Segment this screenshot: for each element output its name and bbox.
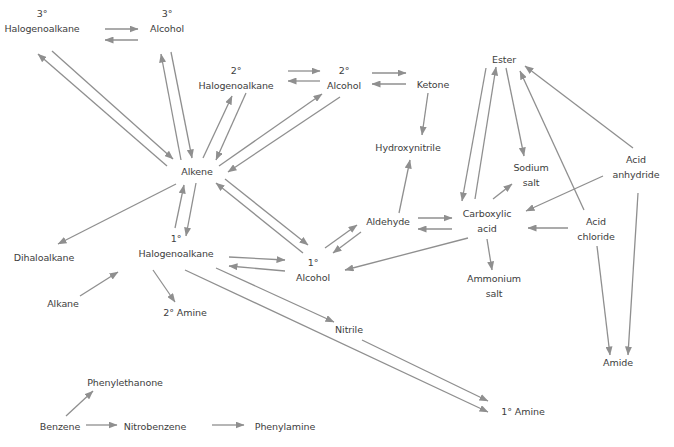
node-label-line: Alcohol [327, 78, 361, 93]
arrow-carboxylic-to-sodiumsalt [493, 184, 512, 199]
node-acidanhydride: Acidanhydride [612, 152, 659, 182]
node-label-line: Ketone [417, 77, 449, 92]
node-ketone: Ketone [417, 77, 449, 92]
node-halo3: 3°Halogenoalkane [4, 6, 79, 36]
node-aldehyde: Aldehyde [366, 214, 410, 229]
node-label-line: Halogenoalkane [138, 246, 213, 261]
node-label-line: Nitrobenzene [124, 419, 186, 434]
node-halo2: 2°Halogenoalkane [198, 63, 273, 93]
arrow-carboxylic-to-ester [475, 67, 496, 199]
arrow-alc1-to-alkene [216, 183, 303, 253]
node-alkene: Alkene [181, 164, 212, 179]
arrow-nitrile-to-amine1 [362, 340, 488, 401]
node-label-line: 2° Amine [163, 305, 206, 320]
node-label-line: Hydroxynitrile [375, 140, 440, 155]
node-label-line: 2° [198, 63, 273, 78]
arrow-aldehyde-to-alc1 [333, 232, 361, 253]
node-label-line: 3° [4, 6, 79, 21]
node-hydroxynitrile: Hydroxynitrile [375, 140, 440, 155]
node-label-line: Halogenoalkane [198, 78, 273, 93]
arrow-alkene-to-halo1 [186, 183, 196, 236]
node-label-line: Dihaloalkane [14, 250, 75, 265]
node-nitrobenzene: Nitrobenzene [124, 419, 186, 434]
node-label-line: Aldehyde [366, 214, 410, 229]
node-label-line: Ester [492, 52, 516, 67]
arrow-alkene-to-halo3 [38, 54, 167, 166]
node-label-line: Phenylamine [255, 419, 315, 434]
arrow-aldehyde-to-hydroxynitrile [399, 160, 410, 213]
node-label-line: 1° Amine [501, 404, 544, 419]
arrow-alc2-to-alkene [228, 97, 340, 172]
node-amide: Amide [603, 355, 633, 370]
node-label-line: acid [463, 221, 512, 236]
node-label-line: Acid [577, 214, 614, 229]
reaction-map-diagram: 3°Halogenoalkane3°Alcohol2°Halogenoalkan… [0, 0, 674, 447]
node-amine1: 1° Amine [501, 404, 544, 419]
arrow-halo1-to-amine1 [185, 270, 488, 412]
node-alc1: 1°Alcohol [296, 255, 330, 285]
node-benzene: Benzene [40, 419, 80, 434]
node-ammonium: Ammoniumsalt [467, 271, 521, 301]
node-label-line: Amide [603, 355, 633, 370]
node-label-line: Alcohol [296, 270, 330, 285]
node-label-line: Sodium [513, 160, 548, 175]
node-amine2: 2° Amine [163, 305, 206, 320]
node-label-line: salt [467, 286, 521, 301]
arrow-alkene-to-alc3 [161, 54, 181, 160]
node-phenylethanone: Phenylethanone [87, 375, 163, 390]
node-label-line: Benzene [40, 419, 80, 434]
arrow-acidanhydride-to-amide [628, 193, 638, 355]
node-label-line: anhydride [612, 167, 659, 182]
arrow-alkene-to-alc2 [219, 94, 322, 166]
node-label-line: 1° [138, 231, 213, 246]
node-label-line: 1° [296, 255, 330, 270]
arrow-ester-to-sodiumsalt [506, 68, 524, 156]
node-sodiumsalt: Sodiumsalt [513, 160, 548, 190]
node-label-line: Nitrile [335, 322, 363, 337]
node-label-line: Alkene [181, 164, 212, 179]
node-acidchloride: Acidchloride [577, 214, 614, 244]
node-ester: Ester [492, 52, 516, 67]
node-label-line: Alkane [47, 296, 79, 311]
arrow-halo1-to-alc1 [229, 257, 285, 260]
node-phenylamine: Phenylamine [255, 419, 315, 434]
node-label-line: salt [513, 175, 548, 190]
arrow-benzene-to-phenylethanone [66, 391, 93, 416]
arrow-acidanhydride-to-ester [525, 66, 633, 148]
node-alc3: 3°Alcohol [150, 6, 184, 36]
arrow-alkene-to-halo2 [203, 96, 232, 158]
arrow-ketone-to-hydroxynitrile [422, 93, 428, 135]
arrow-alkene-to-alc1 [225, 179, 308, 245]
node-label-line: chloride [577, 229, 614, 244]
arrow-halo1-to-amine2 [153, 270, 175, 302]
node-label-line: Phenylethanone [87, 375, 163, 390]
arrow-ester-to-carboxylic [462, 68, 486, 201]
arrow-alc1-to-halo1 [229, 266, 285, 271]
node-halo1: 1°Halogenoalkane [138, 231, 213, 261]
node-alc2: 2°Alcohol [327, 63, 361, 93]
node-label-line: Carboxylic [463, 206, 512, 221]
node-label-line: Halogenoalkane [4, 21, 79, 36]
node-label-line: Acid [612, 152, 659, 167]
node-alkane: Alkane [47, 296, 79, 311]
node-label-line: 2° [327, 63, 361, 78]
arrow-carboxylic-to-alc1 [345, 238, 468, 270]
arrow-alc3-to-alkene [171, 52, 192, 158]
node-label-line: Alcohol [150, 21, 184, 36]
node-dihaloalkane: Dihaloalkane [14, 250, 75, 265]
node-label-line: 3° [150, 6, 184, 21]
arrow-alc1-to-aldehyde [325, 225, 357, 248]
arrow-acidchloride-to-amide [597, 246, 610, 355]
arrow-alkane-to-halo1 [80, 272, 118, 296]
node-label-line: Ammonium [467, 271, 521, 286]
arrow-halo3-to-alkene [52, 51, 173, 159]
node-nitrile: Nitrile [335, 322, 363, 337]
arrow-carboxylic-to-ammonium [487, 239, 492, 270]
node-carboxylic: Carboxylicacid [463, 206, 512, 236]
arrow-halo1-to-alkene [175, 185, 184, 228]
